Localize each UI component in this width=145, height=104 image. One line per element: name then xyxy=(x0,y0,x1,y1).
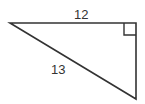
hypotenuse-length-label: 13 xyxy=(51,63,65,76)
top-side-length-label: 12 xyxy=(74,8,88,21)
triangle-figure xyxy=(0,0,145,104)
right-angle-marker xyxy=(124,23,136,35)
triangle-outline xyxy=(10,23,136,99)
right-triangle-diagram: 12 13 xyxy=(0,0,145,104)
